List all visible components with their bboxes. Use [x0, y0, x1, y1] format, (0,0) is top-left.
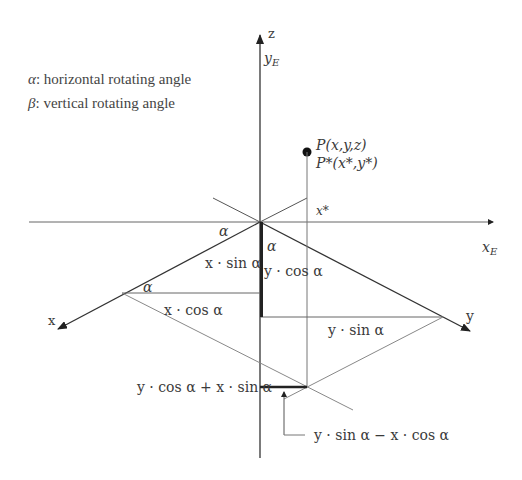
z-axis-label: z [268, 27, 275, 40]
x-sin-label: x · sin α [205, 256, 261, 270]
y-axis-extension [213, 198, 260, 222]
y-sin-label: y · sin α [328, 323, 384, 337]
alpha-description: : horizontal rotating angle [36, 71, 191, 87]
alpha-angle-left: α [143, 280, 152, 294]
y-cos-label: y · cos α [264, 264, 323, 278]
alpha-symbol: α [28, 71, 36, 87]
x-cos-label: x · cos α [164, 303, 223, 317]
xE-axis-label: xE [482, 240, 497, 257]
sum-label: y · cos α + x · sin α [137, 380, 272, 394]
alpha-angle-top-left: α [219, 224, 228, 238]
diff-label: y · sin α − x · cos α [314, 428, 449, 442]
x-axis-extension [260, 198, 307, 222]
alpha-angle-top-right: α [267, 239, 276, 253]
xstar-label: x* [316, 205, 329, 217]
legend-alpha: α: horizontal rotating angle [28, 72, 191, 87]
yE-axis-label: yE [264, 51, 279, 68]
p-label: P(x,y,z) [316, 138, 367, 152]
yE-main: y [264, 50, 272, 66]
yE-subscript: E [272, 57, 279, 68]
legend-beta: β: vertical rotating angle [28, 96, 175, 111]
x-axis-label: x [48, 314, 55, 327]
y-axis-label: y [466, 309, 474, 323]
x-axis [58, 222, 260, 329]
xE-main: x [482, 239, 490, 255]
pstar-label: P*(x*,y*) [316, 156, 378, 170]
xE-subscript: E [490, 246, 497, 257]
beta-description: : vertical rotating angle [35, 95, 175, 111]
